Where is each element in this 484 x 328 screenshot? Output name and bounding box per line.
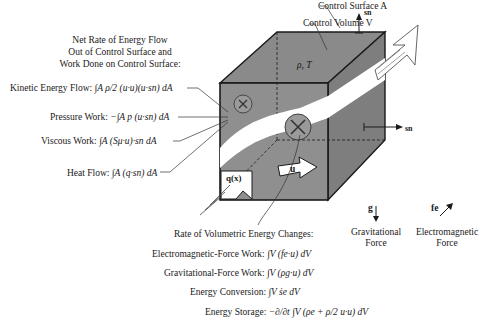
stress-element-large-icon [285, 114, 311, 140]
energy-conversion-row: Energy Conversion: ∫V ṡe dV [190, 287, 300, 298]
control-volume-label: Control Volume V [303, 18, 373, 29]
gravity-arrow-icon [373, 206, 379, 222]
term-expr: ∫A (q·sn) dA [112, 168, 157, 178]
velocity-label: u [290, 164, 295, 175]
term-expr: ∫V (fe·u) dV [267, 249, 311, 259]
state-label: ρ, T [297, 60, 312, 71]
term-expr: ∫V (ρg·u) dV [267, 268, 313, 278]
term-name: Gravitational-Force Work: [164, 268, 265, 278]
control-surface-label: Control Surface A [318, 1, 387, 12]
term-name: Kinetic Energy Flow: [10, 83, 92, 93]
surface-heading-1: Net Rate of Energy Flow [50, 35, 190, 46]
gravity-label-1: Gravitational [340, 227, 412, 238]
em-label-2: Force [410, 238, 484, 249]
term-expr: −∂/∂t ∫V (ρe + ρ/2 u·u) dV [269, 307, 368, 317]
energy-storage-row: Energy Storage: −∂/∂t ∫V (ρe + ρ/2 u·u) … [205, 307, 368, 318]
gravity-label-2: Force [340, 238, 412, 249]
surface-heading-2: Out of Control Surface and [50, 47, 190, 58]
em-force-arrow-icon [440, 203, 453, 216]
volume-heading: Rate of Volumetric Energy Changes: [174, 229, 313, 240]
stress-element-small-icon [234, 95, 252, 113]
heat-flux-label: q(x) [226, 173, 242, 184]
normal-vector-side-label: sn [405, 123, 413, 134]
normal-vector-top-label: sn [364, 7, 372, 18]
em-symbol: fe [431, 203, 438, 214]
gravity-symbol: g [368, 203, 373, 214]
term-expr: ∫A (Sμ·u)·sn dA [99, 136, 156, 146]
term-name: Viscous Work: [41, 136, 97, 146]
gravitational-force-work-row: Gravitational-Force Work: ∫V (ρg·u) dV [164, 268, 313, 279]
term-name: Electromagnetic-Force Work: [152, 249, 265, 259]
viscous-work-row: Viscous Work: ∫A (Sμ·u)·sn dA [41, 136, 156, 147]
term-name: Energy Conversion: [190, 287, 266, 297]
term-expr: ∫V ṡe dV [268, 287, 299, 297]
heat-flow-row: Heat Flow: ∫A (q·sn) dA [67, 168, 157, 179]
term-expr: ∫A ρ/2 (u·u)(u·sn) dA [95, 83, 173, 93]
term-expr: −∫A p (u·sn) dA [110, 112, 169, 122]
pressure-work-row: Pressure Work: −∫A p (u·sn) dA [50, 112, 169, 123]
kinetic-energy-flow-row: Kinetic Energy Flow: ∫A ρ/2 (u·u)(u·sn) … [10, 83, 173, 94]
em-label-1: Electromagnetic [410, 227, 484, 238]
surface-heading-3: Work Done on Control Surface: [40, 59, 200, 70]
term-name: Pressure Work: [50, 112, 108, 122]
term-name: Energy Storage: [205, 307, 266, 317]
em-force-work-row: Electromagnetic-Force Work: ∫V (fe·u) dV [152, 249, 311, 260]
term-name: Heat Flow: [67, 168, 109, 178]
